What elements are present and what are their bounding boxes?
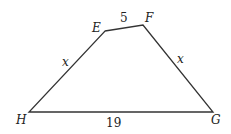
vertex-label-h: H [15,113,27,127]
side-label-he: x [62,55,69,69]
side-label-fg: x [177,52,184,66]
side-label-gh: 19 [106,116,121,130]
vertex-label-f: F [144,11,154,25]
quadrilateral-efgh [29,25,213,112]
side-label-ef: 5 [120,11,128,25]
vertex-label-g: G [211,113,221,127]
vertex-label-e: E [91,21,101,35]
quadrilateral-diagram: E F G H 5 x 19 x [0,0,231,134]
